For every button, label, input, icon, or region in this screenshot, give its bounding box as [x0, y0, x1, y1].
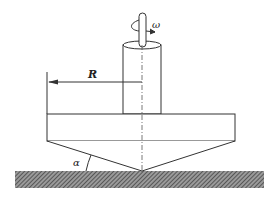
angle-arc	[86, 155, 91, 171]
radius-arrowhead-icon	[48, 80, 58, 85]
alpha-label: α	[73, 157, 80, 168]
cone-plate-diagram: ω R α	[0, 0, 278, 197]
spindle	[139, 13, 146, 47]
plate	[47, 114, 235, 141]
omega-label: ω	[152, 19, 160, 30]
radius-label: R	[87, 68, 97, 81]
ground-surface	[15, 171, 264, 188]
